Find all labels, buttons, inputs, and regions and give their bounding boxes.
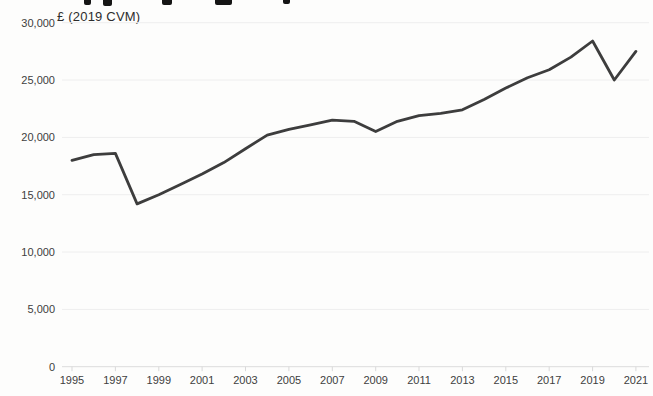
x-tick-label: 2019 bbox=[580, 374, 604, 386]
y-tick-label: 30,000 bbox=[21, 17, 55, 29]
x-tick-label: 2007 bbox=[320, 374, 344, 386]
x-tick-label: 2017 bbox=[537, 374, 561, 386]
x-tick-label: 2009 bbox=[363, 374, 387, 386]
x-tick-label: 2013 bbox=[450, 374, 474, 386]
x-tick-label: 2001 bbox=[190, 374, 214, 386]
y-tick-label: 15,000 bbox=[21, 189, 55, 201]
x-tick-label: 2021 bbox=[624, 374, 648, 386]
y-tick-label: 25,000 bbox=[21, 74, 55, 86]
y-tick-label: 10,000 bbox=[21, 246, 55, 258]
chart-canvas: £ (2019 CVM) 05,00010,00015,00020,00025,… bbox=[0, 0, 653, 396]
x-tick-label: 2003 bbox=[233, 374, 257, 386]
x-tick-label: 1995 bbox=[60, 374, 84, 386]
x-tick-label: 1999 bbox=[147, 374, 171, 386]
y-tick-label: 0 bbox=[49, 361, 55, 373]
y-tick-label: 20,000 bbox=[21, 131, 55, 143]
x-tick-label: 2005 bbox=[277, 374, 301, 386]
x-tick-label: 2011 bbox=[407, 374, 431, 386]
data-line-series bbox=[72, 41, 636, 204]
y-tick-label: 5,000 bbox=[27, 303, 55, 315]
x-tick-label: 1997 bbox=[103, 374, 127, 386]
line-chart: 05,00010,00015,00020,00025,00030,0001995… bbox=[0, 0, 653, 396]
x-tick-label: 2015 bbox=[494, 374, 518, 386]
